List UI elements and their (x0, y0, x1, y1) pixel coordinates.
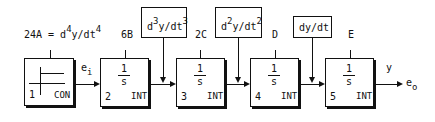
input-connector-5 (312, 38, 313, 77)
integrator-chain-diagram: 24A = d4y/dt4 1 CON ei 6B 1s 2 INT d3y/d… (0, 0, 435, 122)
block-type: CON (54, 91, 70, 100)
input-box-second-derivative[interactable]: d2y/dt2 (215, 7, 262, 38)
block-type: INT (356, 92, 372, 101)
block-type: INT (281, 92, 297, 101)
block-type: INT (131, 92, 147, 101)
block-4-integrator[interactable]: 1s 4 INT (250, 58, 299, 107)
block-number: 2 (105, 92, 111, 102)
arrow-right-icon (397, 81, 403, 87)
connector-2-3 (151, 84, 170, 85)
block-type: INT (207, 92, 223, 101)
transfer-function: 1s (343, 64, 355, 87)
transfer-function: 1s (268, 64, 280, 87)
step-icon-level (40, 73, 64, 74)
block-3-tag: 2C (195, 30, 207, 40)
block-2-tick (125, 50, 126, 58)
signal-y-label: y (386, 63, 392, 73)
transfer-function: 1s (118, 64, 130, 87)
step-icon-axis (29, 83, 65, 84)
signal-eo-label: eo (406, 78, 417, 88)
block-4-tag: D (272, 30, 278, 40)
block-number: 4 (255, 92, 261, 102)
connector-4-5 (301, 84, 319, 85)
block-1-constant[interactable]: 1 CON (24, 58, 74, 106)
input-label: d3y/dt3 (147, 22, 188, 32)
input-connector-4 (238, 38, 239, 77)
block-3-integrator[interactable]: 1s 3 INT (176, 58, 225, 107)
block-2-integrator[interactable]: 1s 2 INT (100, 58, 149, 107)
signal-ei-label: ei (81, 63, 92, 73)
block-number: 5 (330, 92, 336, 102)
input-box-third-derivative[interactable]: d3y/dt3 (141, 7, 187, 38)
block-2-tag: 6B (121, 30, 133, 40)
block-5-tag: E (348, 30, 354, 40)
connector-3-4 (227, 84, 244, 85)
arrow-down-icon (160, 77, 166, 83)
transfer-function: 1s (194, 64, 206, 87)
block-number: 3 (181, 92, 187, 102)
block-3-tick (200, 50, 201, 58)
connector-1-2 (76, 84, 94, 85)
block-number: 1 (29, 90, 35, 100)
input-label: dy/dt (299, 23, 329, 33)
step-icon-vertical (40, 67, 41, 95)
arrow-down-icon (309, 77, 315, 83)
connector-output (376, 84, 397, 85)
block-1-tick (50, 50, 51, 58)
block-4-tick (275, 50, 276, 58)
arrow-down-icon (235, 77, 241, 83)
block-5-integrator[interactable]: 1s 5 INT (325, 58, 374, 107)
block-5-tick (350, 50, 351, 58)
initial-condition-label: 24A = d4y/dt4 (24, 30, 101, 40)
input-box-first-derivative[interactable]: dy/dt (293, 16, 332, 38)
input-label: d2y/dt2 (221, 22, 262, 32)
input-connector-3 (163, 38, 164, 77)
